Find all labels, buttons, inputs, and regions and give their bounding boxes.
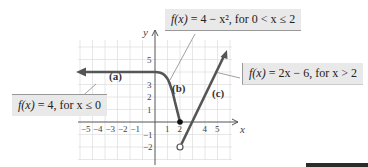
y-tick: 3 (147, 80, 152, 90)
x-tick: −3 (106, 124, 116, 134)
up-right-arrow-icon (221, 50, 228, 59)
callout-piece-c: f(x) = 2x − 6, for x > 2 (242, 63, 363, 85)
x-tick: 2 (178, 124, 183, 134)
x-axis-label: x (239, 123, 245, 135)
x-tick: 1 (165, 124, 170, 134)
callout-fx: f(x) (171, 12, 188, 26)
page-edge-bar (306, 163, 368, 167)
y-tick: 5 (147, 55, 152, 65)
callout-text: = 2x − 6, for x > 2 (266, 66, 357, 80)
callout-piece-a: f(x) = 4, for x ≤ 0 (12, 94, 107, 116)
piece-c-label: (c) (212, 87, 225, 100)
y-tick: 2 (147, 92, 152, 102)
open-endpoint (177, 144, 183, 150)
x-tick: 4 (203, 124, 208, 134)
y-tick: −1 (143, 130, 153, 140)
callout-text: = 4, for x ≤ 0 (35, 98, 101, 112)
callout-fx: f(x) (18, 98, 35, 112)
callout-text: = 4 − x², for 0 < x ≤ 2 (188, 12, 295, 26)
x-tick: 5 (215, 124, 220, 134)
x-tick: −2 (118, 124, 128, 134)
callout-piece-b: f(x) = 4 − x², for 0 < x ≤ 2 (165, 9, 301, 31)
y-tick: −2 (143, 142, 153, 152)
callout-fx: f(x) (249, 66, 266, 80)
y-axis-label: y (142, 26, 148, 38)
x-tick: −4 (93, 124, 103, 134)
x-tick: −5 (81, 124, 91, 134)
y-tick: 1 (147, 105, 152, 115)
piece-b-label: (b) (172, 82, 186, 95)
piece-a-label: (a) (109, 70, 122, 83)
x-tick: −1 (131, 124, 141, 134)
left-arrow-icon (76, 68, 86, 77)
